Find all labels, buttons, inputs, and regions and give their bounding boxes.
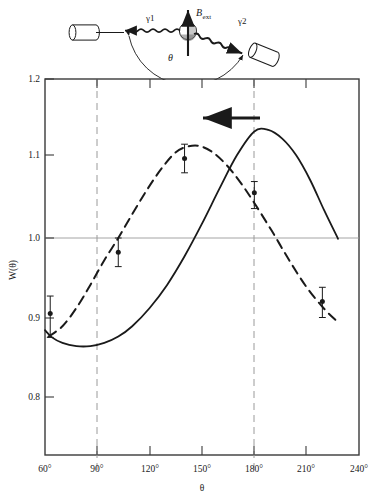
y-ticklabel-0-8: 0.8 [28,392,40,402]
x-axis-title: θ [200,483,205,493]
y-ticklabel-1-1: 1.1 [28,150,40,160]
y-axis-ticks [45,79,54,397]
data-point [47,296,54,337]
plot-frame [45,79,359,455]
y-axis-ticklabels: 1.2 1.1 1.0 0.9 0.8 [28,74,40,402]
x-ticklabel-180: 180° [245,464,263,474]
figure-root: Bext γ1 γ2 θ [0,0,387,502]
data-marker [48,311,53,316]
x-axis-ticklabels: 60° 90° 120° 150° 180° 210° 240° [38,464,368,474]
data-point [319,287,326,317]
x-ticklabel-210: 210° [297,464,315,474]
gridlines-vertical-dashed [97,79,254,470]
x-ticklabel-120: 120° [141,464,159,474]
x-ticklabel-150: 150° [193,464,211,474]
x-ticklabel-90: 90° [90,464,104,474]
x-ticklabel-240: 240° [350,464,368,474]
y-ticklabel-1-2: 1.2 [28,74,40,84]
x-ticklabel-60: 60° [38,464,52,474]
data-marker [116,250,121,255]
angular-correlation-plot: 1.2 1.1 1.0 0.9 0.8 60° 90° 120° 150° 18… [0,0,387,502]
data-point [115,238,122,267]
data-points-with-errorbars [47,144,326,337]
data-point [251,182,258,209]
data-marker [252,190,257,195]
data-marker [182,156,187,161]
y-ticklabel-1-0: 1.0 [28,233,40,243]
y-axis-title: W(θ) [8,260,19,280]
y-ticklabel-0-9: 0.9 [28,313,40,323]
x-axis-ticks [97,79,306,455]
data-marker [320,299,325,304]
